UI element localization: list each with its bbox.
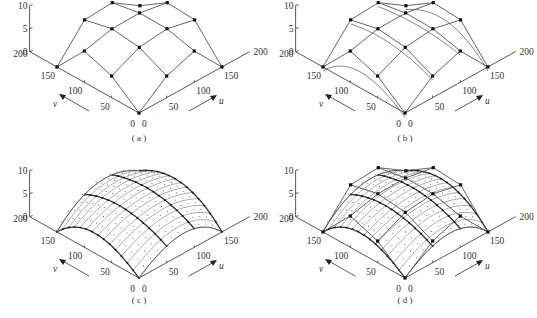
- sample-point: [137, 258, 138, 259]
- control-point: [349, 18, 352, 21]
- curve-point: [424, 195, 426, 197]
- control-point: [404, 211, 407, 214]
- control-point: [404, 169, 407, 172]
- curve-point: [430, 199, 432, 201]
- curve-point: [408, 222, 410, 224]
- sample-point: [155, 201, 156, 202]
- sample-point: [114, 180, 115, 181]
- sample-point: [439, 216, 440, 217]
- sample-point: [102, 226, 103, 227]
- v-tick-label: 200: [13, 49, 28, 59]
- v-tick-label: 150: [307, 71, 322, 81]
- ruling-line: [116, 199, 199, 250]
- v-tick-label: 50: [100, 102, 110, 112]
- sample-point: [352, 202, 353, 203]
- u-tick-label: 100: [196, 251, 211, 261]
- v-tick-label: 0: [396, 284, 401, 294]
- sample-point: [107, 184, 108, 185]
- sample-point: [431, 231, 432, 232]
- curve-point: [209, 213, 211, 215]
- sample-point: [172, 226, 173, 227]
- sample-point: [381, 223, 382, 224]
- curve-point: [407, 184, 409, 186]
- sample-point: [433, 211, 434, 212]
- sample-point: [388, 217, 389, 218]
- sample-point: [408, 201, 409, 202]
- curve-point: [115, 249, 117, 251]
- control-point: [432, 1, 435, 4]
- control-point: [193, 49, 196, 52]
- curve-point: [440, 178, 442, 180]
- v-tick-label: 0: [130, 284, 135, 294]
- curve-point: [148, 227, 150, 229]
- z-tick: [296, 193, 299, 194]
- panel-caption: ( b ): [398, 133, 413, 143]
- z-tick-label: 5: [23, 189, 28, 199]
- sample-point: [118, 196, 119, 197]
- control-point: [349, 214, 352, 217]
- interpolating-curve: [351, 24, 433, 80]
- control-point: [431, 27, 434, 30]
- v-axis-label: v: [319, 264, 324, 274]
- sample-point: [357, 211, 358, 212]
- curve-point: [369, 238, 371, 240]
- panel-caption: ( a ): [132, 133, 147, 143]
- v-axis-label: v: [53, 99, 58, 109]
- sample-point: [84, 219, 85, 220]
- sample-point: [91, 211, 92, 212]
- u-tick-label: 50: [435, 267, 445, 277]
- sample-point: [138, 244, 139, 245]
- curve-point: [436, 204, 438, 206]
- u-axis-label: u: [219, 261, 224, 271]
- curve-point: [174, 178, 176, 180]
- v-tick-label: 150: [41, 71, 56, 81]
- sample-point: [351, 210, 352, 211]
- sample-point: [423, 250, 424, 251]
- sample-point: [148, 172, 149, 173]
- sample-point: [132, 238, 133, 239]
- sample-point: [171, 182, 172, 183]
- sample-point: [149, 197, 150, 198]
- sample-point: [466, 209, 467, 210]
- sample-point: [431, 178, 432, 179]
- sample-point: [375, 174, 376, 175]
- sample-point: [405, 231, 406, 232]
- curve-point: [135, 181, 137, 183]
- sample-point: [398, 187, 399, 188]
- control-point: [404, 4, 407, 7]
- v-tick-label: 200: [279, 49, 294, 59]
- ruling-line: [352, 176, 435, 230]
- sample-point: [150, 257, 151, 258]
- u-tick-label: 100: [196, 86, 211, 96]
- u-tick-label: 50: [169, 267, 179, 277]
- curve-point: [357, 231, 359, 233]
- curve-point: [62, 228, 64, 230]
- v-tick-label: 100: [68, 251, 83, 261]
- control-point: [321, 65, 324, 68]
- z-tick: [30, 5, 33, 6]
- sample-point: [212, 225, 213, 226]
- sample-point: [430, 184, 431, 185]
- sample-point: [445, 222, 446, 223]
- sample-point: [379, 186, 380, 187]
- control-point: [137, 111, 140, 114]
- curve-point: [470, 205, 472, 207]
- sample-point: [145, 237, 146, 238]
- control-point: [165, 27, 168, 30]
- sample-point: [382, 171, 383, 172]
- sample-point: [192, 217, 193, 218]
- u-axis-label: u: [485, 96, 490, 106]
- sample-point: [402, 197, 403, 198]
- sample-point: [401, 172, 402, 173]
- sample-point: [194, 202, 195, 203]
- z-tick: [30, 170, 33, 171]
- sample-point: [177, 186, 178, 187]
- u-direction-arrow: [455, 262, 480, 276]
- sample-point: [120, 182, 121, 183]
- curve-point: [198, 198, 200, 200]
- curve-point: [126, 262, 128, 264]
- sample-point: [159, 225, 160, 226]
- u-tick-label: 0: [408, 119, 413, 129]
- curve-point: [74, 226, 76, 228]
- sample-point: [460, 202, 461, 203]
